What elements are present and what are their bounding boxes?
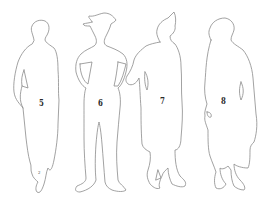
figure-8-outline <box>205 18 257 190</box>
figure-label-8: 8 <box>221 96 226 106</box>
figure-7-outline <box>126 12 186 189</box>
figure-label-7: 7 <box>160 96 165 106</box>
figure-5-outline <box>14 20 59 192</box>
small-mark: 2 <box>38 170 41 175</box>
figure-label-6: 6 <box>98 98 103 108</box>
figure-label-5: 5 <box>39 98 44 108</box>
